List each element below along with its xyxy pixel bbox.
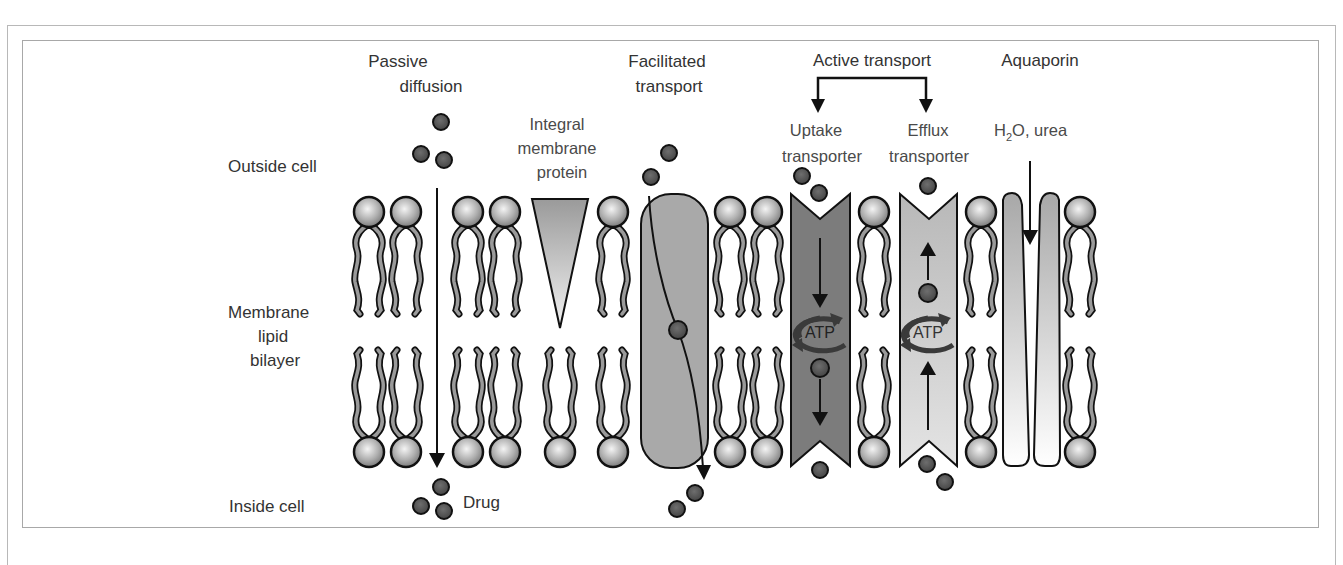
drug-molecule	[919, 456, 935, 472]
integral-protein-line2: membrane	[518, 139, 597, 157]
integral-protein-line3: protein	[537, 163, 587, 181]
uptake-transporter: ATP	[791, 168, 850, 478]
drug-molecule	[920, 178, 936, 194]
atp-label: ATP	[805, 324, 835, 341]
drug-molecule	[436, 503, 452, 519]
drug-molecule	[433, 114, 449, 130]
mechanism-headers: Passive diffusion Integral membrane prot…	[368, 51, 1079, 181]
active-transport-bracket	[811, 78, 933, 113]
side-labels: Outside cell Membrane lipid bilayer Insi…	[228, 157, 317, 516]
passive-title-line2: diffusion	[399, 77, 462, 96]
lipid-bilayer	[354, 197, 1095, 467]
drug-molecule	[413, 146, 429, 162]
inside-cell-label: Inside cell	[229, 497, 305, 516]
atp-label: ATP	[913, 324, 943, 341]
lipid-bottom-row	[354, 350, 1095, 467]
integral-protein-line1: Integral	[529, 115, 584, 133]
facilitated-title-line2: transport	[635, 77, 702, 96]
drug-molecule	[794, 168, 810, 184]
drug-molecule	[436, 152, 452, 168]
drug-molecule	[812, 462, 828, 478]
arrow-head-icon	[429, 453, 445, 468]
aquaporin-title: Aquaporin	[1001, 51, 1079, 70]
drug-molecule	[919, 284, 937, 302]
arrow-head-icon	[696, 465, 711, 480]
active-transport-title: Active transport	[813, 51, 931, 70]
drug-label: Drug	[463, 493, 500, 512]
efflux-label-line1: Efflux	[908, 121, 950, 139]
membrane-label-line2: lipid	[258, 327, 288, 346]
drug-molecule	[811, 185, 827, 201]
drug-molecule	[687, 485, 703, 501]
drug-molecule	[643, 169, 659, 185]
arrow-head-icon	[1022, 230, 1038, 245]
passive-title-line1: Passive	[368, 52, 428, 71]
drug-molecule	[413, 498, 429, 514]
drug-molecule	[811, 359, 829, 377]
facilitated-transport	[641, 145, 711, 517]
uptake-label-line1: Uptake	[790, 121, 842, 139]
aquaporin-substrate-label: H2O, urea	[994, 121, 1068, 143]
efflux-transporter: ATP	[900, 178, 957, 490]
facilitated-title-line1: Facilitated	[628, 52, 705, 71]
membrane-label-line1: Membrane	[228, 303, 309, 322]
efflux-label-line2: transporter	[889, 147, 969, 165]
integral-membrane-protein	[532, 199, 588, 328]
drug-molecule	[661, 145, 677, 161]
drug-molecule	[937, 474, 953, 490]
drug-molecule	[669, 501, 685, 517]
lipid-top-row	[354, 197, 1095, 314]
drug-molecule	[433, 479, 449, 495]
aquaporin-right-subunit	[1034, 193, 1060, 466]
aquaporin	[1003, 161, 1060, 466]
uptake-label-line2: transporter	[782, 147, 862, 165]
drug-molecule	[669, 321, 687, 339]
outside-cell-label: Outside cell	[228, 157, 317, 176]
membrane-label-line3: bilayer	[250, 351, 300, 370]
